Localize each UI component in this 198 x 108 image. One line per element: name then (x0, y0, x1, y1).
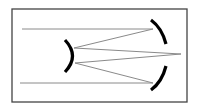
incoming-rays (20, 29, 153, 83)
primary-mirror-upper (151, 20, 166, 44)
mirrors (65, 20, 166, 90)
secondary-mirror (65, 40, 73, 72)
primary-mirror-lower (151, 66, 166, 90)
telescope-ray-diagram (0, 0, 198, 108)
reflected-ray (74, 48, 181, 54)
reflected-ray (75, 63, 153, 83)
reflected-ray (74, 29, 153, 48)
reflected-ray (75, 54, 181, 63)
